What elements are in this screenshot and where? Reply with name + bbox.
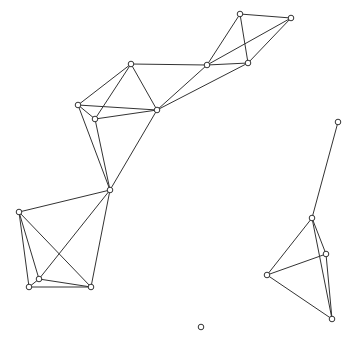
graph-node (26, 284, 32, 290)
graph-edge (95, 119, 110, 190)
graph-edge (267, 218, 312, 275)
graph-edge (157, 63, 248, 110)
graph-node (245, 60, 251, 66)
graph-edge (248, 18, 291, 63)
graph-edge (207, 18, 291, 65)
graph-edge (78, 105, 157, 110)
graph-edge (91, 190, 110, 287)
graph-edge (312, 122, 338, 218)
network-graph (0, 0, 356, 344)
graph-edge (267, 275, 332, 319)
graph-node (329, 316, 335, 322)
graph-edge (312, 218, 332, 319)
graph-edge (131, 64, 157, 110)
graph-edge (207, 63, 248, 65)
nodes-layer (16, 11, 341, 330)
graph-node (36, 276, 42, 282)
graph-edge (95, 64, 131, 119)
graph-node (154, 107, 160, 113)
graph-edge (95, 110, 157, 119)
graph-edge (39, 279, 91, 287)
graph-node (323, 251, 329, 257)
graph-edge (78, 64, 131, 105)
graph-edge (19, 190, 110, 212)
graph-edge (207, 14, 240, 65)
graph-node (309, 215, 315, 221)
graph-node (335, 119, 341, 125)
graph-node (237, 11, 243, 17)
graph-node (75, 102, 81, 108)
graph-edge (326, 254, 332, 319)
graph-node (128, 61, 134, 67)
graph-edge (240, 14, 291, 18)
graph-node (88, 284, 94, 290)
graph-node (204, 62, 210, 68)
graph-node (16, 209, 22, 215)
graph-node (264, 272, 270, 278)
graph-node (198, 324, 204, 330)
edges-layer (19, 14, 338, 319)
graph-edge (110, 110, 157, 190)
graph-edge (240, 14, 248, 63)
graph-node (288, 15, 294, 21)
graph-edge (312, 218, 326, 254)
graph-node (107, 187, 113, 193)
graph-edge (39, 190, 110, 279)
graph-node (92, 116, 98, 122)
graph-edge (131, 64, 207, 65)
graph-edge (19, 212, 29, 287)
